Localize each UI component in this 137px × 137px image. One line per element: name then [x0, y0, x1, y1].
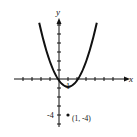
y-tick-label-neg4: -4 [47, 111, 54, 120]
x-tick-label-1: 1 [66, 82, 70, 91]
x-axis-label: x [128, 74, 133, 84]
y-axis-arrow-icon [57, 18, 62, 24]
vertex-label: (1, -4) [72, 114, 91, 123]
vertex-point [66, 113, 69, 116]
y-axis-label: y [55, 7, 60, 17]
parabola-graph: y x 1 -4 (1, -4) [0, 0, 137, 137]
